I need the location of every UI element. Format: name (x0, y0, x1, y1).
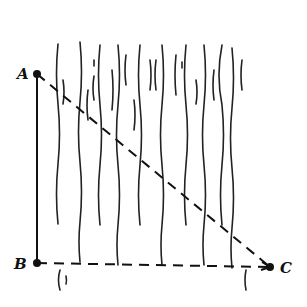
water-current-lines (57, 42, 247, 290)
label-b: B (13, 255, 27, 273)
label-a: A (15, 65, 29, 83)
label-c: C (280, 259, 292, 277)
point-a (33, 70, 41, 78)
point-c (266, 263, 274, 271)
segment-bc-dashed (37, 263, 270, 267)
segment-ac-dashed (37, 74, 270, 267)
point-b (33, 259, 41, 267)
river-crossing-diagram: A B C (0, 0, 307, 307)
